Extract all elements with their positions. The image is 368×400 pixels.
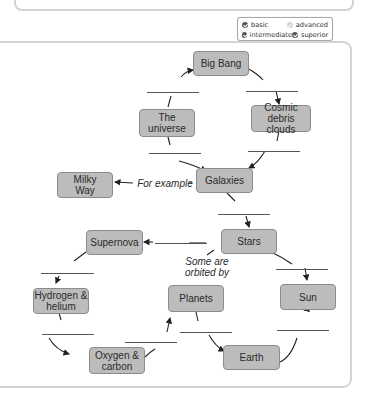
blank-answer-line[interactable]: [246, 91, 298, 92]
edge-label-some-are-orbited-by: Some are orbited by: [181, 256, 233, 278]
blank-answer-line[interactable]: [147, 92, 199, 93]
blank-answer-line[interactable]: [149, 153, 201, 154]
node-earth: Earth: [223, 345, 280, 370]
node-planets: Planets: [168, 285, 224, 312]
blank-answer-line[interactable]: [248, 151, 300, 152]
node-hydrogen-helium: Hydrogen & helium: [33, 288, 89, 314]
node-stars: Stars: [221, 229, 277, 254]
blank-answer-line[interactable]: [125, 342, 177, 343]
node-supernova: Supernova: [86, 230, 143, 255]
node-cosmic-debris-clouds: Cosmic debris clouds: [251, 105, 311, 132]
node-oxygen-carbon: Oxygen & carbon: [89, 347, 145, 374]
connector-arrows: [0, 0, 368, 400]
blank-answer-line[interactable]: [155, 243, 207, 244]
blank-answer-line[interactable]: [42, 334, 94, 335]
edge-label-for-example: For example: [134, 178, 196, 189]
blank-answer-line[interactable]: [180, 332, 232, 333]
blank-answer-line[interactable]: [277, 330, 329, 331]
blank-answer-line[interactable]: [276, 269, 328, 270]
blank-answer-line[interactable]: [218, 214, 270, 215]
node-the-universe: The universe: [139, 109, 195, 137]
blank-answer-line[interactable]: [41, 273, 94, 274]
node-galaxies: Galaxies: [196, 168, 253, 193]
node-sun: Sun: [280, 284, 336, 310]
node-big-bang: Big Bang: [193, 51, 249, 76]
node-milky-way: Milky Way: [57, 172, 113, 198]
